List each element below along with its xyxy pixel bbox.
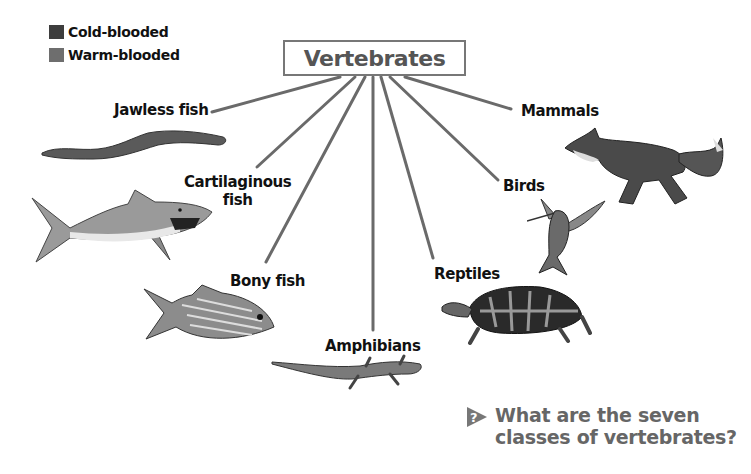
- line-reptiles: [381, 77, 433, 258]
- question-line-1: What are the seven: [495, 404, 737, 426]
- label-jawless-fish: Jawless fish: [114, 101, 208, 119]
- hummingbird-icon: [527, 197, 607, 277]
- bony-fish-icon: [142, 283, 278, 351]
- label-birds: Birds: [503, 177, 545, 195]
- question-line-2: classes of vertebrates?: [495, 426, 737, 448]
- question-prompt: ? What are the seven classes of vertebra…: [465, 404, 737, 448]
- shark-icon: [30, 188, 215, 270]
- line-bony-fish: [266, 77, 365, 262]
- label-mammals: Mammals: [521, 102, 599, 120]
- diagram-title: Vertebrates: [304, 46, 446, 71]
- svg-text:?: ?: [470, 410, 478, 425]
- label-reptiles: Reptiles: [434, 265, 500, 283]
- salamander-icon: [270, 352, 426, 392]
- question-arrow-icon: ?: [465, 405, 489, 429]
- vertebrates-diagram: Cold-blooded Warm-blooded Vertebrates Ja…: [0, 0, 751, 474]
- line-mammals: [405, 77, 511, 109]
- turtle-icon: [440, 283, 592, 347]
- title-box: Vertebrates: [283, 40, 466, 76]
- fox-icon: [563, 124, 725, 208]
- lamprey-icon: [38, 125, 230, 165]
